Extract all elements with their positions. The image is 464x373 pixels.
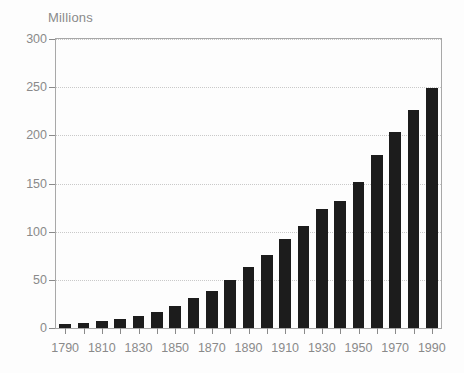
bar-1860[interactable] <box>188 298 200 328</box>
y-tick-mark <box>49 328 55 329</box>
x-tick-mark-1900 <box>267 328 268 334</box>
bar-1930[interactable] <box>316 209 328 328</box>
x-tick-label-1870: 1870 <box>198 341 226 355</box>
x-tick-mark-1960 <box>377 328 378 334</box>
bar-1940[interactable] <box>334 201 346 328</box>
gridline-100 <box>56 232 441 233</box>
bar-1870[interactable] <box>206 291 218 328</box>
bar-1950[interactable] <box>353 182 365 328</box>
x-tick-label-1790: 1790 <box>51 341 79 355</box>
x-tick-label-1910: 1910 <box>271 341 299 355</box>
x-tick-mark-1840 <box>157 328 158 334</box>
y-tick-mark <box>49 87 55 88</box>
y-tick-label: 150 <box>7 177 47 191</box>
bar-1900[interactable] <box>261 255 273 328</box>
x-tick-mark-1870 <box>212 328 213 334</box>
x-tick-label-1950: 1950 <box>345 341 373 355</box>
x-tick-label-1850: 1850 <box>161 341 189 355</box>
x-tick-mark-1890 <box>249 328 250 334</box>
y-tick-label: 300 <box>7 32 47 46</box>
x-tick-mark-1970 <box>395 328 396 334</box>
gridline-150 <box>56 184 441 185</box>
bar-1850[interactable] <box>169 306 181 328</box>
plot-area: 0501001502002503001790181018301850187018… <box>55 38 442 329</box>
y-axis-unit-label: Millions <box>48 10 93 25</box>
bar-1990[interactable] <box>426 88 438 328</box>
x-tick-mark-1790 <box>65 328 66 334</box>
bar-1830[interactable] <box>133 316 145 328</box>
gridline-200 <box>56 135 441 136</box>
x-tick-mark-1880 <box>230 328 231 334</box>
gridline-300 <box>56 39 441 40</box>
population-bar-chart: Millions 0501001502002503001790181018301… <box>0 0 464 373</box>
bar-1880[interactable] <box>224 280 236 328</box>
bar-1840[interactable] <box>151 312 163 328</box>
bar-1920[interactable] <box>298 226 310 328</box>
x-tick-mark-1980 <box>414 328 415 334</box>
y-tick-mark <box>49 135 55 136</box>
bar-1810[interactable] <box>96 321 108 328</box>
x-tick-mark-1820 <box>120 328 121 334</box>
bar-1890[interactable] <box>243 267 255 328</box>
x-tick-mark-1940 <box>340 328 341 334</box>
x-tick-mark-1910 <box>285 328 286 334</box>
bar-1820[interactable] <box>114 319 126 328</box>
y-tick-label: 250 <box>7 80 47 94</box>
x-tick-label-1830: 1830 <box>125 341 153 355</box>
bar-1960[interactable] <box>371 155 383 328</box>
y-tick-mark <box>49 232 55 233</box>
x-tick-mark-1850 <box>175 328 176 334</box>
x-tick-mark-1810 <box>102 328 103 334</box>
x-tick-label-1930: 1930 <box>308 341 336 355</box>
x-tick-label-1990: 1990 <box>418 341 446 355</box>
bar-1910[interactable] <box>279 239 291 328</box>
x-tick-mark-1830 <box>139 328 140 334</box>
bar-1980[interactable] <box>408 110 420 328</box>
gridline-250 <box>56 87 441 88</box>
x-tick-label-1810: 1810 <box>88 341 116 355</box>
bar-1970[interactable] <box>389 132 401 328</box>
y-tick-mark <box>49 280 55 281</box>
x-tick-label-1890: 1890 <box>235 341 263 355</box>
y-tick-label: 200 <box>7 128 47 142</box>
x-tick-mark-1930 <box>322 328 323 334</box>
y-tick-label: 0 <box>7 321 47 335</box>
y-tick-label: 100 <box>7 225 47 239</box>
x-tick-mark-1920 <box>304 328 305 334</box>
y-tick-label: 50 <box>7 273 47 287</box>
x-tick-label-1970: 1970 <box>381 341 409 355</box>
x-tick-mark-1860 <box>194 328 195 334</box>
y-tick-mark <box>49 39 55 40</box>
x-tick-mark-1990 <box>432 328 433 334</box>
x-tick-mark-1950 <box>359 328 360 334</box>
x-tick-mark-1800 <box>84 328 85 334</box>
y-tick-mark <box>49 184 55 185</box>
